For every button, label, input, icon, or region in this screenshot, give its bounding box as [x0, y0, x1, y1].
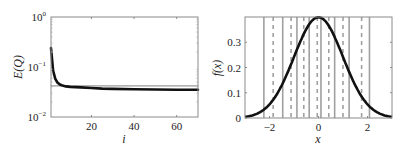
right-ylabel: f(x)	[210, 60, 224, 77]
y-tick-label: 10−2	[28, 110, 47, 123]
y-tick-label: 0	[236, 112, 242, 124]
figure: 20406010−210−1100 i E(Q) −20200.10.20.3 …	[0, 0, 404, 150]
x-tick-label: −2	[264, 121, 276, 133]
left-xlabel: i	[122, 132, 125, 146]
y-tick-label: 0.2	[227, 62, 241, 74]
right-panel-density-plot: −20200.10.20.3 x f(x)	[210, 17, 392, 146]
right-vertical-lines	[264, 17, 370, 118]
error-curve	[51, 48, 198, 90]
right-xlabel: x	[314, 132, 321, 146]
y-tick-label: 100	[32, 10, 47, 23]
y-tick-label: 0.3	[227, 36, 241, 48]
x-tick-label: 40	[129, 120, 141, 132]
left-panel-error-plot: 20406010−210−1100 i E(Q)	[11, 10, 198, 146]
left-ylabel: E(Q)	[11, 55, 25, 80]
left-plot-frame	[51, 17, 198, 117]
left-series-layer	[51, 48, 198, 90]
x-tick-label: 60	[171, 120, 183, 132]
y-tick-label: 0.1	[227, 87, 241, 99]
y-tick-label: 10−1	[28, 60, 47, 73]
x-tick-label: 2	[365, 121, 371, 133]
x-tick-label: 20	[86, 120, 98, 132]
